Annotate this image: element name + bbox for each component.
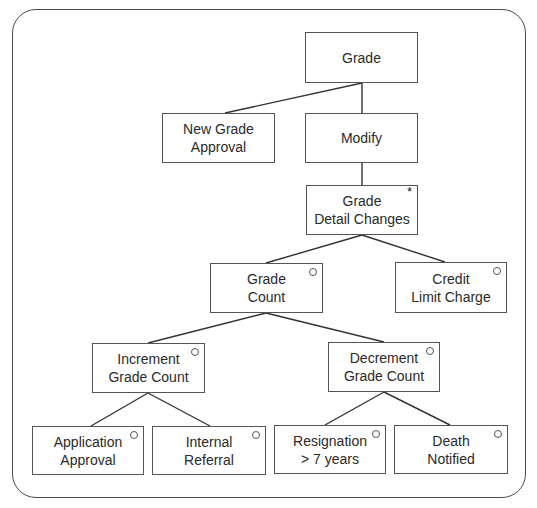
node-label: Decrement Grade Count	[344, 349, 424, 385]
node-grade-detail-changes: * Grade Detail Changes	[306, 185, 418, 235]
node-application-approval: Application Approval	[32, 426, 144, 475]
node-label: Death Notified	[427, 432, 474, 468]
node-internal-referral: Internal Referral	[152, 426, 266, 475]
node-label: Modify	[341, 129, 382, 147]
node-label: Grade Detail Changes	[314, 192, 410, 228]
selection-circle-icon	[426, 347, 434, 355]
selection-circle-icon	[494, 430, 502, 438]
node-new-grade-approval: New Grade Approval	[162, 113, 275, 163]
edge-grade-count-decrement	[266, 313, 384, 342]
node-label: Internal Referral	[184, 433, 234, 469]
node-label: Resignation > 7 years	[293, 432, 367, 468]
node-label: New Grade Approval	[183, 120, 254, 156]
selection-circle-icon	[372, 430, 380, 438]
edge-increment-internal-referral	[148, 393, 210, 426]
node-modify: Modify	[305, 113, 418, 163]
node-credit-limit-charge: Credit Limit Charge	[395, 262, 507, 313]
edge-grade-detail-changes-grade-count	[266, 235, 362, 263]
node-death-notified: Death Notified	[394, 425, 508, 474]
selection-circle-icon	[191, 348, 199, 356]
node-grade: Grade	[305, 32, 418, 83]
edge-grade-new-grade-approval	[225, 83, 362, 113]
iteration-star-icon: *	[407, 185, 412, 199]
node-label: Application Approval	[54, 433, 123, 469]
edge-decrement-resignation	[325, 392, 384, 425]
node-label: Increment Grade Count	[108, 350, 188, 386]
selection-circle-icon	[493, 267, 501, 275]
node-resignation-7-years: Resignation > 7 years	[274, 425, 386, 474]
node-decrement-grade-count: Decrement Grade Count	[328, 342, 440, 392]
edge-grade-count-increment	[148, 313, 266, 343]
selection-circle-icon	[309, 268, 317, 276]
edge-increment-application-approval	[91, 393, 148, 426]
node-label: Grade Count	[247, 270, 286, 306]
node-label: Grade	[342, 49, 381, 67]
node-increment-grade-count: Increment Grade Count	[92, 343, 205, 393]
edge-decrement-death-notified	[384, 392, 450, 425]
edge-grade-detail-changes-credit-limit-charge	[362, 235, 445, 262]
node-label: Credit Limit Charge	[411, 270, 490, 306]
selection-circle-icon	[252, 431, 260, 439]
selection-circle-icon	[130, 431, 138, 439]
node-grade-count: Grade Count	[210, 263, 323, 313]
